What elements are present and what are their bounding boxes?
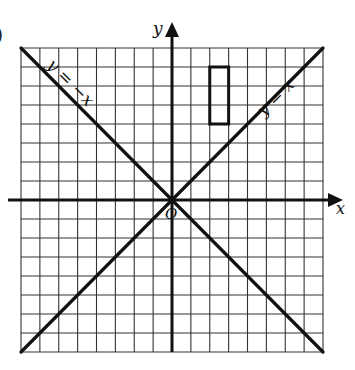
labels: yxOy = −xy = x <box>42 18 345 223</box>
rectangle-shape <box>210 67 229 124</box>
label-y-equals-neg-x: y = −x <box>42 54 98 110</box>
y-axis-label: y <box>152 18 163 38</box>
origin-label: O <box>165 205 177 223</box>
y-axis-arrow-icon <box>165 22 179 37</box>
origin-point <box>169 197 175 203</box>
coordinate-diagram: yxOy = −xy = x <box>0 0 355 370</box>
shapes <box>210 67 229 124</box>
x-axis-label: x <box>336 199 345 218</box>
